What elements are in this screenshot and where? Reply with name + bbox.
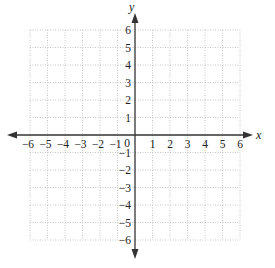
y-tick-label: −4	[119, 199, 131, 211]
y-tick-label: −3	[119, 182, 131, 194]
x-tick-label: 3	[185, 138, 191, 150]
y-tick-label: 6	[125, 24, 131, 36]
y-tick-label: −2	[119, 164, 131, 176]
y-tick-label: 1	[125, 112, 131, 124]
x-tick-label: 2	[167, 138, 173, 150]
x-tick-label: 6	[237, 138, 243, 150]
y-tick-label: −1	[119, 147, 131, 159]
y-tick-label: 5	[125, 42, 131, 54]
y-tick-label: 3	[125, 77, 131, 89]
x-tick-label: −6	[22, 138, 34, 150]
y-axis-up-arrow-icon	[132, 13, 139, 23]
y-axis-label: y	[128, 0, 135, 14]
x-axis-label: x	[255, 128, 262, 142]
x-tick-label: −5	[39, 138, 51, 150]
y-tick-label: −6	[119, 234, 131, 246]
y-tick-label: 2	[125, 94, 131, 106]
x-axis-right-arrow-icon	[243, 132, 253, 139]
x-tick-label: −4	[57, 138, 69, 150]
y-tick-label: 4	[125, 59, 131, 71]
x-tick-label: −3	[74, 138, 86, 150]
y-axis-down-arrow-icon	[132, 249, 139, 259]
y-tick-label: −5	[119, 217, 131, 229]
coordinate-plane: x y 0 −6−5−4−3−2−1123456 654321−1−2−3−4−…	[0, 0, 275, 268]
x-tick-label: 5	[220, 138, 226, 150]
x-tick-labels: −6−5−4−3−2−1123456	[22, 138, 243, 150]
x-tick-label: 1	[150, 138, 156, 150]
x-tick-label: −2	[92, 138, 104, 150]
x-tick-label: 4	[202, 138, 208, 150]
x-axis-left-arrow-icon	[7, 132, 17, 139]
